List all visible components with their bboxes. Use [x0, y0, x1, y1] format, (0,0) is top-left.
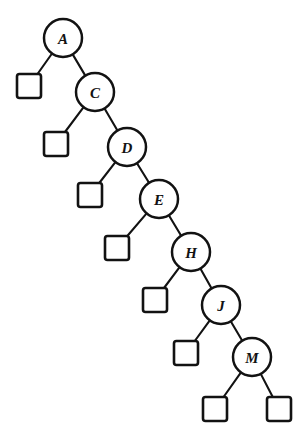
- nil-leaf-square-leaf-D-left: [78, 183, 102, 207]
- nil-leaf-square-leaf-E-left: [105, 236, 129, 260]
- node-label-A: A: [57, 31, 68, 47]
- tree-node-H: H: [172, 233, 210, 271]
- tree-node-D: D: [108, 128, 146, 166]
- tree-node-A: A: [44, 19, 82, 57]
- tree-edge-E-to-leaf-E-left: [127, 213, 146, 236]
- tree-node-E: E: [140, 180, 178, 218]
- nil-leaf-square-leaf-A-left: [17, 74, 41, 98]
- node-label-E: E: [153, 192, 164, 208]
- node-label-H: H: [184, 245, 198, 261]
- tree-edge-A-to-leaf-A-left: [38, 54, 53, 75]
- tree-edge-M-to-leaf-M-right: [261, 374, 273, 397]
- nil-leaf-square-leaf-M-left: [203, 397, 227, 421]
- tree-edge-C-to-D: [105, 108, 118, 130]
- node-label-C: C: [90, 85, 101, 101]
- nil-leaf-square-leaf-M-right: [267, 397, 291, 421]
- tree-edge-H-to-J: [200, 269, 211, 289]
- tree-edge-C-to-leaf-C-left: [65, 107, 84, 132]
- node-label-D: D: [121, 140, 133, 156]
- nil-leaf-square-leaf-J-left: [174, 341, 198, 365]
- tree-edge-M-to-leaf-M-left: [224, 372, 241, 397]
- tree-edge-A-to-C: [73, 54, 86, 75]
- tree-node-J: J: [202, 286, 240, 324]
- binary-tree-diagram: ACDEHJM: [0, 0, 304, 441]
- tree-edge-D-to-E: [137, 163, 149, 183]
- tree-canvas: ACDEHJM: [0, 0, 304, 441]
- tree-node-M: M: [233, 338, 271, 376]
- node-label-M: M: [244, 350, 259, 366]
- tree-edge-J-to-M: [231, 321, 243, 340]
- nil-leaf-square-leaf-C-left: [44, 132, 68, 156]
- tree-edge-E-to-H: [169, 215, 181, 235]
- tree-edge-D-to-leaf-D-left: [99, 162, 115, 183]
- tree-edge-H-to-leaf-H-left: [164, 267, 180, 288]
- tree-node-C: C: [76, 73, 114, 111]
- nil-leaf-square-leaf-H-left: [143, 288, 167, 312]
- node-label-J: J: [216, 298, 225, 314]
- tree-edge-J-to-leaf-J-left: [195, 320, 210, 341]
